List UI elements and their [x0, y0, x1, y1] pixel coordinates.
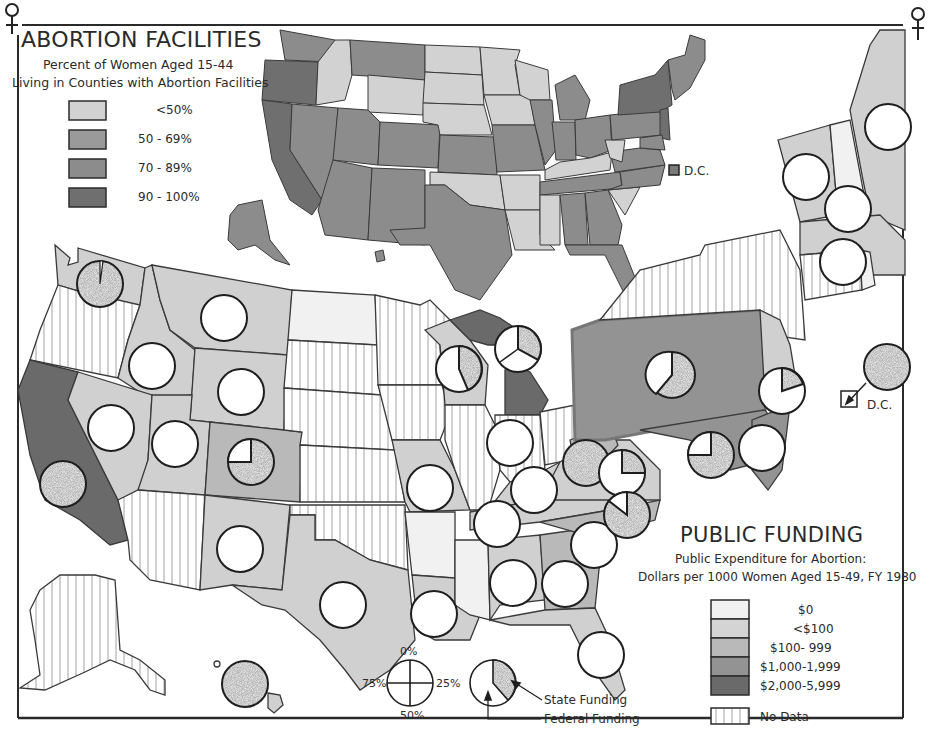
funding-legend-label-6: No Data	[760, 710, 809, 724]
facilities-subtitle-2: Living in Counties with Abortion Facilit…	[12, 75, 269, 90]
pie-me	[865, 104, 911, 150]
pie-key-state-label: State Funding	[544, 693, 627, 707]
venus-icon-right	[912, 8, 924, 40]
state-ms	[455, 540, 490, 620]
pie-dc	[864, 344, 910, 390]
pie-hi	[222, 661, 268, 707]
facilities-title: ABORTION FACILITIES	[21, 27, 262, 52]
pie-key-bottom: 50%	[400, 709, 424, 722]
state-wy	[368, 75, 425, 115]
pie-va	[599, 450, 645, 496]
pie-md	[688, 432, 734, 478]
state-oh	[575, 115, 612, 158]
pie-mi	[495, 326, 541, 372]
funding-legend-label-4: $1,000-1,999	[760, 660, 841, 674]
state-ms	[540, 195, 560, 245]
pie-nm	[217, 526, 263, 572]
pie-wy	[218, 369, 264, 415]
facilities-subtitle-1: Percent of Women Aged 15-44	[43, 57, 233, 72]
funding-legend-label-2: <$100	[793, 622, 834, 636]
state-ak	[228, 200, 290, 265]
pie-ut	[152, 421, 198, 467]
pie-ga	[542, 561, 588, 607]
facilities-legend-label-2: 50 - 69%	[138, 132, 192, 146]
state-nd	[288, 290, 378, 345]
state-hi-small	[214, 661, 220, 667]
map-figure: ABORTION FACILITIES Percent of Women Age…	[0, 0, 930, 740]
funding-legend-label-1: $0	[798, 603, 813, 617]
pie-vt	[783, 154, 829, 200]
state-wi	[515, 60, 550, 100]
pie-tx	[320, 582, 366, 628]
pie-mt	[201, 295, 247, 341]
state-md	[640, 135, 665, 150]
pie-key-example	[470, 660, 542, 719]
facilities-legend-label-1: <50%	[156, 103, 193, 117]
state-hi	[268, 693, 283, 713]
state-ia	[484, 95, 535, 125]
state-ar	[405, 512, 455, 578]
state-co	[378, 122, 440, 168]
state-ks	[300, 445, 405, 502]
pie-ma	[820, 239, 866, 285]
dc-swatch-facilities	[669, 165, 679, 175]
state-ne	[284, 388, 395, 450]
funding-legend-label-5: $2,000-5,999	[760, 679, 841, 693]
state-ny	[618, 60, 672, 115]
pie-nh	[825, 186, 871, 232]
pie-mo	[407, 465, 453, 511]
funding-subtitle-2: Dollars per 1000 Women Aged 15-49, FY 19…	[638, 570, 916, 584]
pie-id	[129, 343, 175, 389]
state-in	[552, 122, 576, 160]
pie-la	[411, 591, 457, 637]
state-mt	[350, 40, 425, 80]
funding-dc-label: D.C.	[867, 398, 892, 412]
funding-subtitle-1: Public Expenditure for Abortion:	[675, 552, 866, 566]
funding-title: PUBLIC FUNDING	[680, 523, 863, 547]
funding-legend	[711, 600, 749, 724]
state-sd	[423, 72, 484, 105]
state-nd	[425, 45, 482, 75]
venus-icon-left	[6, 4, 18, 34]
state-ks	[438, 135, 497, 175]
pie-wi	[436, 346, 482, 392]
state-or	[262, 60, 318, 105]
pie-nc	[604, 492, 650, 538]
facilities-map	[228, 30, 705, 300]
pie-nv	[88, 405, 134, 451]
dc-marker	[841, 383, 866, 407]
pie-key-left: 75%	[362, 677, 386, 690]
pie-al	[490, 560, 536, 606]
state-mi-lower	[505, 365, 548, 415]
map-canvas	[0, 0, 930, 740]
state-mn	[480, 47, 520, 95]
pie-key-right: 25%	[436, 677, 460, 690]
pie-pa	[646, 352, 695, 398]
pie-in	[487, 420, 533, 466]
state-ak	[20, 575, 165, 695]
pie-ca	[40, 461, 86, 507]
pie-fl	[578, 632, 624, 678]
facilities-legend	[69, 101, 106, 207]
state-mi	[555, 75, 590, 120]
state-al	[560, 193, 588, 245]
facilities-legend-label-3: 70 - 89%	[138, 161, 192, 175]
pie-wa	[77, 261, 123, 307]
funding-legend-label-3: $100- 999	[770, 641, 832, 655]
state-new-england	[668, 35, 705, 100]
pie-nj	[759, 368, 805, 414]
state-ut	[333, 108, 380, 165]
pie-ky	[511, 467, 557, 513]
facilities-legend-label-4: 90 - 100%	[138, 190, 200, 204]
state-sd	[284, 340, 382, 395]
pie-key-top: 0%	[400, 645, 417, 658]
state-ar	[500, 175, 540, 210]
pie-co	[228, 439, 274, 485]
state-az	[118, 490, 205, 590]
pie-key-federal-label: Federal Funding	[544, 712, 640, 726]
state-hi	[375, 250, 385, 262]
facilities-dc-label: D.C.	[684, 164, 709, 178]
pie-key-quadrant	[387, 660, 433, 706]
pie-de	[739, 425, 785, 471]
pie-tn	[474, 501, 520, 547]
